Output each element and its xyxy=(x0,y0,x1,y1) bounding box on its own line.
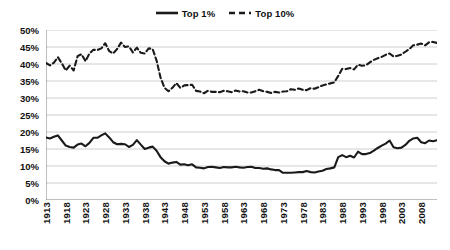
x-axis-tick-labels: 1913191819231928193319381943194819531958… xyxy=(46,202,437,248)
y-axis-tick-label: 25% xyxy=(20,110,39,121)
x-axis-tick-label: 1918 xyxy=(61,202,72,224)
x-axis-tick-label: 1983 xyxy=(317,202,328,224)
x-axis-tick-label: 1928 xyxy=(100,202,111,224)
x-axis-tick-label: 1913 xyxy=(41,202,52,224)
y-axis-tick-label: 50% xyxy=(20,25,39,36)
x-axis-tick-label: 1993 xyxy=(357,202,368,224)
data-series-group xyxy=(46,42,437,173)
x-axis-tick-label: 1998 xyxy=(377,202,388,224)
x-axis-tick-label: 1948 xyxy=(179,202,190,224)
y-axis-tick-label: 20% xyxy=(20,127,39,138)
y-axis-tick-label: 10% xyxy=(20,161,39,172)
x-axis-tick-label: 1953 xyxy=(199,202,210,224)
legend-label-top-10: Top 10% xyxy=(255,8,294,19)
series-line-top-10 xyxy=(46,42,437,93)
legend-item-top-10[interactable]: Top 10% xyxy=(229,8,294,19)
y-axis-tick-label: 45% xyxy=(20,42,39,53)
x-axis-tick-label: 1923 xyxy=(80,202,91,224)
legend-item-top-1[interactable]: Top 1% xyxy=(156,8,216,19)
y-axis-tick-label: 30% xyxy=(20,93,39,104)
plot-area xyxy=(46,30,437,200)
series-line-top-1 xyxy=(46,133,437,172)
income-share-line-chart: Top 1% Top 10% 0%5%10%15%20%25%30%35%40%… xyxy=(0,0,450,250)
y-axis-tick-labels: 0%5%10%15%20%25%30%35%40%45%50% xyxy=(0,0,44,200)
chart-legend: Top 1% Top 10% xyxy=(0,4,450,22)
dashed-line-swatch xyxy=(229,8,251,18)
y-axis-tick-label: 40% xyxy=(20,59,39,70)
x-axis-tick-label: 2008 xyxy=(416,202,427,224)
x-axis-tick-label: 1988 xyxy=(337,202,348,224)
plot-svg xyxy=(46,30,437,200)
x-axis-tick-label: 1943 xyxy=(159,202,170,224)
x-axis-tick-label: 2003 xyxy=(396,202,407,224)
x-axis-tick-label: 1933 xyxy=(120,202,131,224)
legend-label-top-1: Top 1% xyxy=(182,8,216,19)
x-axis-tick-label: 1963 xyxy=(238,202,249,224)
x-axis-tick-label: 1958 xyxy=(219,202,230,224)
x-axis-tick-label: 1978 xyxy=(298,202,309,224)
x-axis-tick-label: 1973 xyxy=(278,202,289,224)
y-gridlines xyxy=(46,30,437,200)
x-axis-tick-label: 1968 xyxy=(258,202,269,224)
x-axis-tick-label: 1938 xyxy=(140,202,151,224)
y-axis-tick-label: 35% xyxy=(20,76,39,87)
y-axis-tick-label: 5% xyxy=(25,178,39,189)
y-axis-tick-label: 15% xyxy=(20,144,39,155)
solid-line-swatch xyxy=(156,8,178,18)
y-axis-tick-label: 0% xyxy=(25,195,39,206)
